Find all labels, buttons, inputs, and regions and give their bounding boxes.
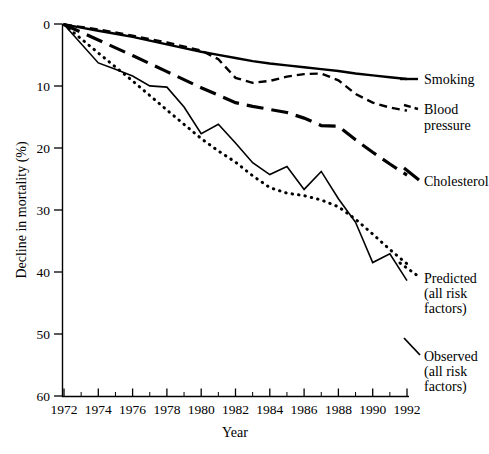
series-line-predicted bbox=[64, 25, 407, 264]
x-tick-label-1978: 1978 bbox=[153, 402, 180, 417]
series-label-smoking: Smoking bbox=[424, 72, 475, 87]
x-tick-label-1982: 1982 bbox=[222, 402, 249, 417]
series-label-observed-l2: (all risk bbox=[424, 364, 467, 380]
series-label-predicted-l2: (all risk bbox=[424, 286, 467, 302]
x-axis-tick-labels: 1972 1974 1976 1978 1980 1982 1984 1986 … bbox=[51, 402, 421, 417]
x-tick-label-1976: 1976 bbox=[119, 402, 146, 417]
series-label-blood-line2: pressure bbox=[424, 118, 471, 133]
axis-lines bbox=[63, 24, 410, 397]
leader-observed bbox=[404, 338, 420, 355]
x-tick-label-1992: 1992 bbox=[394, 402, 421, 417]
series-label-predicted-l1: Predicted bbox=[424, 271, 477, 286]
y-tick-label-40: 40 bbox=[37, 265, 51, 280]
y-tick-label-20: 20 bbox=[37, 141, 51, 156]
x-axis-ticks bbox=[64, 389, 407, 397]
x-tick-label-1986: 1986 bbox=[291, 402, 318, 417]
y-axis-ticks bbox=[54, 24, 63, 396]
x-tick-label-1990: 1990 bbox=[359, 402, 386, 417]
series-line-blood-pressure bbox=[64, 25, 407, 111]
y-tick-label-10: 10 bbox=[37, 79, 51, 94]
y-tick-label-60: 60 bbox=[37, 389, 51, 404]
y-axis-title: Decline in mortality (%) bbox=[14, 141, 30, 279]
x-tick-label-1974: 1974 bbox=[85, 402, 112, 417]
y-tick-label-30: 30 bbox=[37, 203, 51, 218]
y-tick-label-50: 50 bbox=[37, 327, 51, 342]
x-axis-title: Year bbox=[222, 425, 248, 440]
x-tick-label-1984: 1984 bbox=[256, 402, 283, 417]
series-label-cholesterol: Cholesterol bbox=[424, 174, 489, 189]
x-tick-label-1972: 1972 bbox=[51, 402, 78, 417]
y-axis-tick-labels: 0 10 20 30 40 50 60 bbox=[37, 17, 51, 404]
series-label-observed-l3: factors) bbox=[424, 379, 467, 395]
leader-blood-pressure bbox=[404, 105, 418, 109]
series-line-observed bbox=[64, 25, 407, 281]
y-tick-label-0: 0 bbox=[43, 17, 50, 32]
series-label-predicted-l3: factors) bbox=[424, 301, 467, 317]
x-tick-label-1980: 1980 bbox=[188, 402, 215, 417]
chart-figure: 0 10 20 30 40 50 60 Decline in mortality… bbox=[0, 0, 489, 454]
series-line-cholesterol bbox=[64, 25, 407, 176]
mortality-decline-line-chart: 0 10 20 30 40 50 60 Decline in mortality… bbox=[0, 0, 489, 454]
series-label-observed-l1: Observed bbox=[424, 349, 478, 364]
x-tick-label-1988: 1988 bbox=[325, 402, 352, 417]
series-label-blood-line1: Blood bbox=[424, 102, 458, 117]
